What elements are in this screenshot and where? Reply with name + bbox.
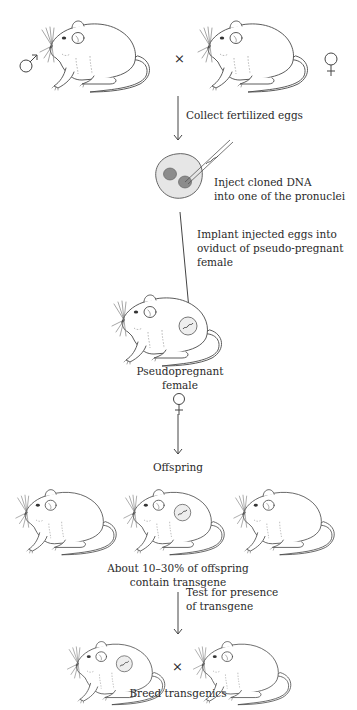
implant-label-line3: female [197, 256, 233, 270]
offspring-mouse-3 [232, 476, 342, 562]
cross-symbol-bottom: × [172, 660, 183, 674]
implant-label-line1: Implant injected eggs into [197, 228, 337, 242]
inject-label-line1: Inject cloned DNA [214, 176, 312, 190]
cross-symbol-top: × [174, 52, 185, 66]
inject-label-line2: into one of the pronuclei [214, 190, 345, 204]
breed-label: Breed transgenics [98, 687, 258, 701]
arrow-offspring [172, 414, 184, 456]
test-label-line1: Test for presence [186, 586, 278, 600]
offspring-mouse-2-transgenic [122, 476, 232, 562]
offspring-label: Offspring [118, 461, 238, 475]
pseudopregnant-mouse-illustration [110, 282, 230, 372]
male-symbol-icon [18, 52, 40, 74]
collect-eggs-label: Collect fertilized eggs [186, 109, 303, 123]
percent-label-line1: About 10–30% of offspring [88, 562, 268, 576]
offspring-mouse-1 [14, 476, 124, 562]
male-mouse-illustration [38, 8, 158, 98]
female-mouse-illustration [196, 8, 316, 98]
pseudopregnant-label-line1: Pseudopregnant [120, 365, 240, 379]
female-symbol-icon [323, 52, 339, 78]
test-label-line2: of transgene [186, 600, 253, 614]
implant-label-line2: oviduct of pseudo-pregnant [197, 242, 343, 256]
pseudopregnant-label-line2: female [120, 379, 240, 393]
